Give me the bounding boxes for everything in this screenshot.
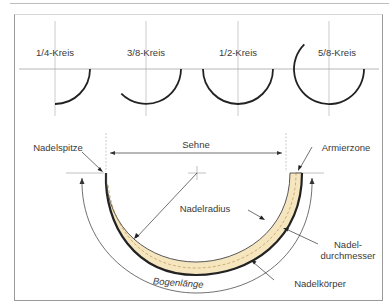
label-swage: Armierzone [322,142,371,153]
curvature-three-eighths: 3/8-Kreis [121,21,181,116]
curvature-panel: 1/4-Kreis 3/8-Kreis 1/2-Kreis 5/8-Kreis [19,21,379,116]
label-diameter-line2: durchmesser [321,250,376,261]
label-quarter-circle: 1/4-Kreis [36,47,74,58]
label-half-circle: 1/2-Kreis [219,47,257,58]
label-three-eighths-circle: 3/8-Kreis [127,47,165,58]
label-chord: Sehne [182,139,209,150]
needle-diagram: 1/4-Kreis 3/8-Kreis 1/2-Kreis 5/8-Kreis [0,0,389,307]
label-radius: Nadelradius [180,203,231,214]
anatomy-panel: Sehne Bogenlänge Nadelradius Nadelspitze… [33,133,375,293]
label-five-eighths-circle: 5/8-Kreis [318,47,356,58]
label-body: Nadelkörper [294,278,346,289]
arc-three-eighths [121,69,181,104]
curvature-half: 1/2-Kreis [203,21,273,116]
arc-quarter [55,69,90,104]
needle-outer-edge [106,173,302,275]
needle-body [106,173,302,275]
curvature-quarter: 1/4-Kreis [36,21,90,116]
label-tip: Nadelspitze [33,142,83,153]
curvature-five-eighths: 5/8-Kreis [294,21,364,116]
label-diameter-line1: Nadel- [334,239,362,250]
